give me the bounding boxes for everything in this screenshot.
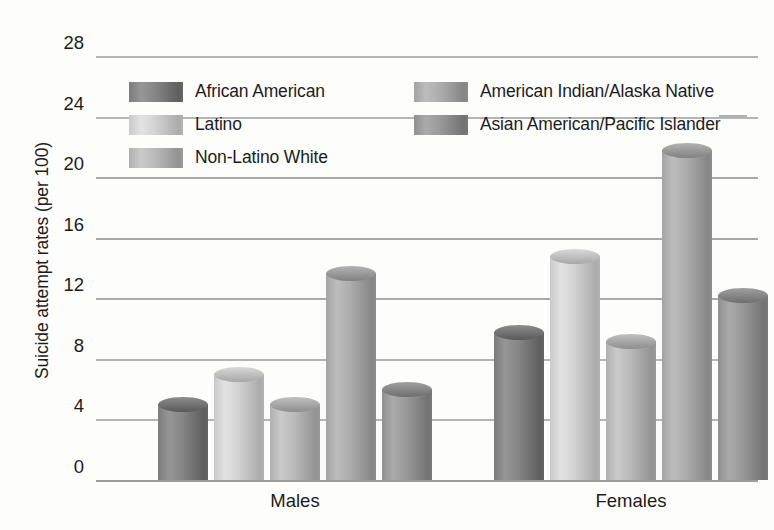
bar-body [326, 273, 376, 480]
legend-item-african-american[interactable]: African American [129, 76, 328, 107]
legend-column-right: American Indian/Alaska NativeAsian Ameri… [414, 76, 720, 142]
bar-body [270, 404, 320, 480]
legend-label: African American [195, 81, 325, 102]
legend-column-left: African AmericanLatinoNon-Latino White [129, 76, 328, 175]
y-axis-tick-0: 0 [74, 458, 84, 477]
legend-item-asian-american-pacific-islander[interactable]: Asian American/Pacific Islander [414, 109, 720, 140]
y-axis-tick-12: 12 [63, 276, 84, 295]
x-axis-label-males: Males [215, 490, 375, 512]
bar-cap-ellipse [606, 334, 656, 349]
y-axis-tick-24: 24 [63, 94, 84, 113]
bar-males-american-indian-alaska-native [326, 266, 376, 480]
bar-females-asian-american-pacific-islander [718, 288, 768, 480]
legend-item-latino[interactable]: Latino [129, 109, 328, 140]
y-axis-tick-16: 16 [63, 215, 84, 234]
y-axis-tick-8: 8 [74, 336, 84, 355]
legend-item-american-indian-alaska-native[interactable]: American Indian/Alaska Native [414, 76, 720, 107]
legend-label: American Indian/Alaska Native [480, 81, 714, 102]
gridline-0 [96, 480, 758, 482]
legend-trailing-dash [719, 115, 747, 117]
bar-females-american-indian-alaska-native [662, 143, 712, 480]
bar-males-african-american [158, 397, 208, 480]
x-axis-label-females: Females [551, 490, 711, 512]
bar-cap-ellipse [662, 143, 712, 158]
bar-females-african-american [494, 325, 544, 480]
bar-body [494, 332, 544, 480]
y-axis-tick-4: 4 [74, 397, 84, 416]
legend-item-non-latino-white[interactable]: Non-Latino White [129, 142, 328, 173]
bar-body [718, 295, 768, 480]
bar-body [550, 256, 600, 480]
legend-label: Latino [195, 114, 242, 135]
bar-females-non-latino-white [606, 334, 656, 480]
legend-swatch-icon [129, 148, 183, 168]
y-axis-tick-28: 28 [63, 34, 84, 53]
legend-swatch-icon [129, 82, 183, 102]
y-axis-tick-20: 20 [63, 155, 84, 174]
bar-males-asian-american-pacific-islander [382, 382, 432, 480]
legend-swatch-icon [414, 115, 468, 135]
bar-body [382, 389, 432, 480]
bar-cap-ellipse [494, 325, 544, 340]
bar-body [606, 341, 656, 480]
bar-cap-ellipse [214, 367, 264, 382]
legend-label: Non-Latino White [195, 147, 328, 168]
legend-swatch-icon [129, 115, 183, 135]
bar-males-latino [214, 367, 264, 480]
bar-males-non-latino-white [270, 397, 320, 480]
legend-label: Asian American/Pacific Islander [480, 114, 720, 135]
chart-container: Suicide attempt rates (per 100) 28242016… [0, 0, 774, 530]
bar-cap-ellipse [550, 249, 600, 264]
bar-cap-ellipse [326, 266, 376, 281]
bar-body [662, 150, 712, 480]
bar-females-latino [550, 249, 600, 480]
bar-body [214, 374, 264, 480]
bar-body [158, 404, 208, 480]
y-axis-title: Suicide attempt rates (per 100) [32, 81, 53, 441]
legend-swatch-icon [414, 82, 468, 102]
